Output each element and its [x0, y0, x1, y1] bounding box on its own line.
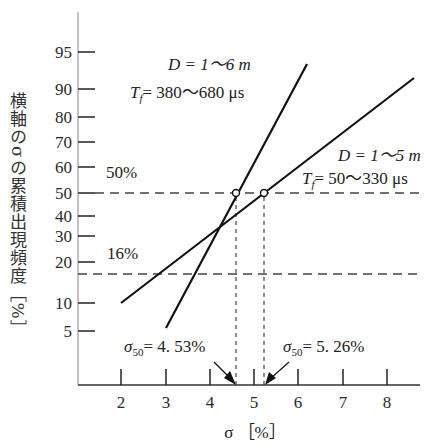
marker-sigma50-453: [233, 190, 240, 197]
svg-text:D = 1〜6 m: D = 1〜6 m: [167, 55, 251, 74]
svg-text:95: 95: [55, 43, 72, 62]
ref-label-16: 16%: [107, 244, 138, 263]
x-axis-title: σ ［%］: [224, 423, 286, 442]
svg-text:5: 5: [64, 322, 73, 341]
svg-text:4: 4: [206, 393, 215, 412]
svg-text:σ50= 5. 26%: σ50= 5. 26%: [283, 337, 364, 358]
svg-text:30: 30: [55, 227, 72, 246]
svg-text:Tf= 50〜330 μs: Tf= 50〜330 μs: [302, 169, 408, 190]
svg-text:50: 50: [55, 184, 72, 203]
probability-chart: 95 90 80 70 60 50 40 30 20 10 5 2 3 4 5 …: [0, 0, 438, 448]
svg-text:20: 20: [55, 253, 72, 272]
ref-label-50: 50%: [106, 163, 137, 182]
x-tick-labels: 2 3 4 5 6 7 8: [117, 393, 392, 412]
svg-text:90: 90: [55, 80, 72, 99]
svg-text:70: 70: [55, 133, 72, 152]
annotation-sigma50-453: σ50= 4. 53%: [124, 337, 236, 385]
svg-text:3: 3: [162, 393, 171, 412]
svg-text:60: 60: [55, 158, 72, 177]
svg-text:2: 2: [117, 393, 126, 412]
svg-text:7: 7: [339, 393, 348, 412]
svg-text:D = 1〜5 m: D = 1〜5 m: [337, 146, 421, 165]
svg-text:σ50= 4. 53%: σ50= 4. 53%: [124, 337, 205, 358]
annotation-sigma50-526: σ50= 5. 26%: [265, 337, 364, 385]
svg-text:5: 5: [250, 393, 259, 412]
svg-text:10: 10: [55, 294, 72, 313]
svg-text:40: 40: [55, 207, 72, 226]
svg-text:80: 80: [55, 108, 72, 127]
svg-text:Tf= 380〜680 μs: Tf= 380〜680 μs: [130, 83, 244, 104]
svg-text:6: 6: [294, 393, 303, 412]
series1-label: D = 1〜6 m Tf= 380〜680 μs: [130, 55, 251, 104]
svg-text:8: 8: [383, 393, 392, 412]
series2-label: D = 1〜5 m Tf= 50〜330 μs: [302, 146, 421, 190]
marker-sigma50-526: [261, 190, 268, 197]
series-line-D1-5m: [121, 78, 414, 303]
y-ticks: [78, 52, 95, 331]
x-ticks: [121, 369, 387, 385]
y-tick-labels: 95 90 80 70 60 50 40 30 20 10 5: [55, 43, 72, 341]
